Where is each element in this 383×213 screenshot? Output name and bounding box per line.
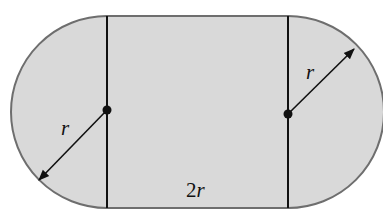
right-radius-label: r <box>306 62 314 83</box>
width-label-variable: r <box>197 178 205 202</box>
right-center-dot <box>284 110 293 119</box>
left-center-dot <box>103 106 112 115</box>
width-label-number: 2 <box>186 178 197 202</box>
left-radius-label: r <box>61 118 69 139</box>
stadium-diagram: r r 2r <box>0 0 383 213</box>
width-label: 2r <box>186 180 205 201</box>
